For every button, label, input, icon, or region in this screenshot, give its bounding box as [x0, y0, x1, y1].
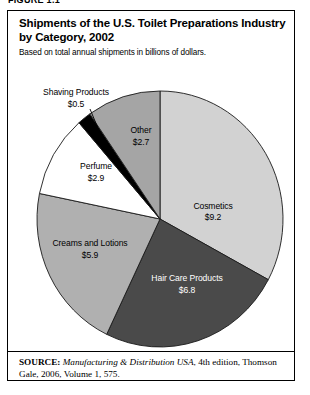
- slice-name-shaving-products: Shaving Products: [43, 87, 109, 97]
- title-block: Shipments of the U.S. Toilet Preparation…: [19, 17, 287, 58]
- slice-name-hair-care-products: Hair Care Products: [151, 273, 222, 283]
- slice-value-hair-care-products: $6.8: [179, 285, 196, 295]
- slice-value-perfume: $2.9: [88, 173, 105, 183]
- slice-value-creams-and-lotions: $5.9: [82, 250, 99, 260]
- source-label: SOURCE:: [19, 357, 60, 367]
- slice-name-other: Other: [131, 125, 152, 135]
- figure-page: FIGURE 1.1 Shipments of the U.S. Toilet …: [0, 0, 310, 395]
- slice-value-shaving-products: $0.5: [68, 99, 85, 109]
- figure-subtitle: Based on total annual shipments in billi…: [19, 47, 287, 58]
- slice-name-cosmetics: Cosmetics: [193, 201, 232, 211]
- figure-number-label: FIGURE 1.1: [8, 0, 60, 4]
- pie-chart-svg: Cosmetics$9.2Hair Care Products$6.8Cream…: [8, 67, 294, 357]
- figure-box: Shipments of the U.S. Toilet Preparation…: [7, 10, 295, 381]
- source-publication-title: Manufacturing & Distribution USA: [63, 357, 194, 367]
- page-title: Shipments of the U.S. Toilet Preparation…: [19, 17, 287, 44]
- pie-slice-layer: [37, 91, 283, 347]
- slice-name-perfume: Perfume: [80, 161, 112, 171]
- source-note: SOURCE: Manufacturing & Distribution USA…: [19, 357, 287, 380]
- source-divider: [8, 351, 294, 352]
- slice-value-other: $2.7: [133, 137, 150, 147]
- slice-value-cosmetics: $9.2: [205, 212, 222, 222]
- slice-name-creams-and-lotions: Creams and Lotions: [52, 238, 127, 248]
- pie-chart: Cosmetics$9.2Hair Care Products$6.8Cream…: [8, 67, 294, 357]
